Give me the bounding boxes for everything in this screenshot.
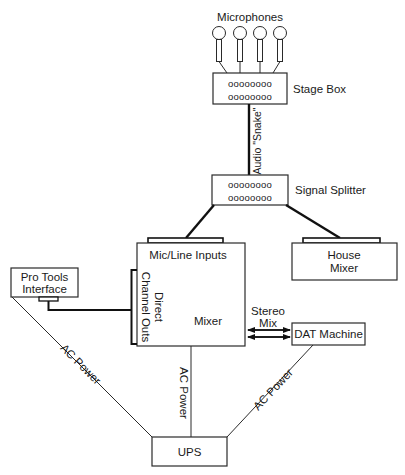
house-mixer-label-line-1: House	[327, 249, 360, 261]
ac-power-dat: AC Power	[227, 345, 313, 437]
microphone-icon	[213, 27, 228, 74]
microphones: Microphones	[213, 11, 287, 73]
stage-box-label: Stage Box	[293, 83, 346, 95]
ups-label: UPS	[178, 446, 202, 458]
stereo-mix-connection: Stereo Mix	[248, 305, 290, 337]
stage-box: oooooooo oooooooo Stage Box	[213, 73, 346, 104]
splitter-to-mixer-cable	[186, 205, 214, 238]
splitter-jacks-row-1: oooooooo	[228, 179, 272, 190]
pro-tools-label-line-2: Interface	[22, 283, 67, 295]
dat-machine: DAT Machine	[292, 323, 365, 345]
pro-tools-label-line-1: Pro Tools	[21, 271, 69, 283]
ac-power-label: AC Power	[178, 367, 190, 419]
stage-box-jacks-row-2: oooooooo	[228, 91, 272, 102]
stereo-mix-label-line-2: Mix	[259, 317, 277, 329]
audio-snake-label: Audio "Snake"	[251, 107, 263, 174]
dat-machine-label: DAT Machine	[294, 328, 363, 340]
microphone-icon	[273, 27, 287, 74]
signal-splitter: oooooooo oooooooo Signal Splitter	[212, 175, 366, 205]
house-mixer-label-line-2: Mixer	[330, 262, 358, 274]
signal-flow-diagram: Microphones oooooooo oooooooo Stage Box	[0, 0, 405, 475]
ac-power-mixer: AC Power	[178, 346, 191, 437]
mic-line-inputs-connector	[148, 238, 223, 243]
stereo-mix-label-line-1: Stereo	[251, 305, 285, 317]
microphone-icon	[254, 27, 267, 74]
stage-box-jacks-row-1: oooooooo	[228, 78, 272, 89]
mixer: Mic/Line Inputs Mixer Direct Channel Out…	[132, 238, 246, 346]
direct-outs-label-line-2: Channel Outs	[140, 272, 152, 343]
ac-power-label: AC Power	[251, 366, 295, 412]
pro-tools-interface: Pro Tools Interface	[11, 268, 78, 301]
mic-line-inputs-label: Mic/Line Inputs	[149, 249, 227, 261]
ups: UPS	[152, 437, 227, 466]
splitter-to-house-mixer-cable	[286, 205, 340, 238]
house-mixer-inputs-connector	[303, 238, 380, 243]
direct-outs-connector	[132, 270, 138, 344]
microphones-label: Microphones	[217, 11, 283, 23]
signal-splitter-label: Signal Splitter	[295, 184, 366, 196]
mixer-label: Mixer	[194, 315, 222, 327]
splitter-jacks-row-2: oooooooo	[228, 192, 272, 203]
house-mixer: House Mixer	[292, 238, 397, 280]
pro-tools-connector	[39, 297, 58, 301]
ac-power-label: AC Power	[58, 342, 103, 387]
direct-outs-to-pro-tools-cable	[49, 301, 132, 310]
audio-snake-connection: Audio "Snake"	[249, 104, 263, 175]
microphone-icon	[234, 27, 247, 74]
direct-outs-label-line-1: Direct	[153, 292, 165, 323]
